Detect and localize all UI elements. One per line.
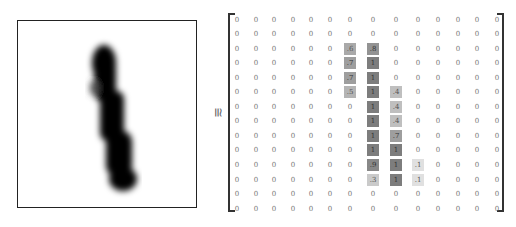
matrix-cell: 0 xyxy=(390,28,402,40)
matrix-cell: 1 xyxy=(390,159,402,171)
matrix-cell: 0 xyxy=(287,159,299,171)
matrix-cell: 0 xyxy=(231,43,243,55)
matrix-cell: 0 xyxy=(344,144,356,156)
matrix-cell: 0 xyxy=(452,159,464,171)
matrix-cell: .1 xyxy=(412,159,424,171)
matrix-cell: 0 xyxy=(268,159,280,171)
matrix-cell: 0 xyxy=(324,101,336,113)
matrix-cell: 0 xyxy=(432,72,444,84)
matrix-cell: 0 xyxy=(390,72,402,84)
matrix-cell: 0 xyxy=(324,14,336,26)
matrix-cell: 0 xyxy=(471,28,483,40)
matrix-cell: 0 xyxy=(305,86,317,98)
matrix-cell: .4 xyxy=(390,101,402,113)
matrix-cell: 0 xyxy=(324,144,336,156)
matrix-cell: 0 xyxy=(344,188,356,200)
matrix-cell: 0 xyxy=(344,174,356,186)
matrix-cell: 0 xyxy=(268,130,280,142)
matrix-cell: 0 xyxy=(390,57,402,69)
matrix-cell: 0 xyxy=(432,144,444,156)
matrix-cell: 0 xyxy=(471,57,483,69)
matrix-cell: 0 xyxy=(305,43,317,55)
matrix-cell: 0 xyxy=(324,28,336,40)
matrix-cell: 0 xyxy=(412,28,424,40)
matrix-cell: 0 xyxy=(268,188,280,200)
matrix-cell: .7 xyxy=(344,57,356,69)
matrix-cell: 0 xyxy=(432,14,444,26)
matrix-cell: 0 xyxy=(305,14,317,26)
matrix-cell: .8 xyxy=(367,43,379,55)
matrix-cell: 0 xyxy=(305,188,317,200)
matrix-cell: 0 xyxy=(432,115,444,127)
matrix-cell: 0 xyxy=(268,57,280,69)
matrix-cell: 0 xyxy=(432,203,444,215)
matrix-cell: 0 xyxy=(305,115,317,127)
matrix-cell: 0 xyxy=(268,86,280,98)
matrix-cell: 0 xyxy=(412,130,424,142)
matrix-cell: .7 xyxy=(344,72,356,84)
pixel-matrix: 0000000000000000000000000000000000.6.800… xyxy=(228,13,504,212)
matrix-cell: 0 xyxy=(471,86,483,98)
matrix-cell: 0 xyxy=(287,174,299,186)
matrix-cell: 0 xyxy=(412,14,424,26)
matrix-cell: 0 xyxy=(305,130,317,142)
matrix-cell: 0 xyxy=(432,174,444,186)
matrix-cell: 0 xyxy=(250,115,262,127)
matrix-cell: 0 xyxy=(432,86,444,98)
matrix-cell: 0 xyxy=(412,115,424,127)
matrix-cell: 0 xyxy=(390,14,402,26)
matrix-cell: 1 xyxy=(367,144,379,156)
matrix-cell: 0 xyxy=(287,72,299,84)
matrix-cell: 0 xyxy=(412,203,424,215)
matrix-cell: 0 xyxy=(471,14,483,26)
matrix-cell: 0 xyxy=(452,130,464,142)
matrix-cell: 0 xyxy=(268,72,280,84)
matrix-cell: 0 xyxy=(432,188,444,200)
matrix-cell: 0 xyxy=(412,72,424,84)
matrix-cell: 0 xyxy=(287,115,299,127)
matrix-cell: 0 xyxy=(412,101,424,113)
matrix-cell: 1 xyxy=(367,86,379,98)
matrix-cell: 0 xyxy=(324,43,336,55)
matrix-cell: 0 xyxy=(287,203,299,215)
matrix-cell: 0 xyxy=(231,144,243,156)
matrix-cell: 0 xyxy=(250,174,262,186)
matrix-cell: 0 xyxy=(367,28,379,40)
matrix-cell: 0 xyxy=(287,101,299,113)
matrix-cell: 0 xyxy=(231,174,243,186)
matrix-cell: 0 xyxy=(231,101,243,113)
matrix-cell: 0 xyxy=(367,14,379,26)
matrix-cell: .6 xyxy=(344,43,356,55)
matrix-cell: 0 xyxy=(412,86,424,98)
matrix-cell: 0 xyxy=(491,115,503,127)
matrix-cell: 0 xyxy=(231,203,243,215)
matrix-cell: 0 xyxy=(344,14,356,26)
matrix-cell: 0 xyxy=(231,159,243,171)
matrix-cell: 0 xyxy=(390,203,402,215)
matrix-cell: 0 xyxy=(268,101,280,113)
matrix-cell: 0 xyxy=(324,174,336,186)
matrix-cell: 0 xyxy=(305,28,317,40)
matrix-cell: 0 xyxy=(452,203,464,215)
matrix-cell: 1 xyxy=(367,115,379,127)
matrix-cell: 0 xyxy=(324,86,336,98)
matrix-cell: 0 xyxy=(390,43,402,55)
matrix-cell: 0 xyxy=(250,130,262,142)
matrix-cell: 0 xyxy=(250,188,262,200)
matrix-cell: 0 xyxy=(491,43,503,55)
matrix-cell: 0 xyxy=(268,115,280,127)
matrix-cell: 0 xyxy=(324,130,336,142)
matrix-cell: 0 xyxy=(452,101,464,113)
matrix-cell: 0 xyxy=(250,57,262,69)
matrix-cell: 1 xyxy=(367,130,379,142)
matrix-cell: .4 xyxy=(390,115,402,127)
matrix-cell: 1 xyxy=(367,57,379,69)
matrix-cell: 0 xyxy=(268,203,280,215)
matrix-cell: 0 xyxy=(344,130,356,142)
matrix-cell: 0 xyxy=(491,86,503,98)
matrix-cell: 0 xyxy=(324,188,336,200)
matrix-cell: 0 xyxy=(491,203,503,215)
matrix-cell: 0 xyxy=(250,14,262,26)
matrix-cell: 0 xyxy=(287,188,299,200)
matrix-cell: 1 xyxy=(367,101,379,113)
